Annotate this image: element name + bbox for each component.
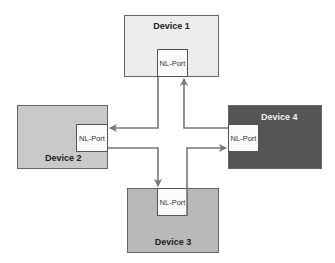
link-device2-to-device3 <box>108 148 158 186</box>
link-device3-to-device4 <box>187 148 226 216</box>
link-device4-to-device1 <box>184 79 228 128</box>
link-arrows <box>0 0 335 263</box>
link-device1-to-device2 <box>110 77 158 128</box>
